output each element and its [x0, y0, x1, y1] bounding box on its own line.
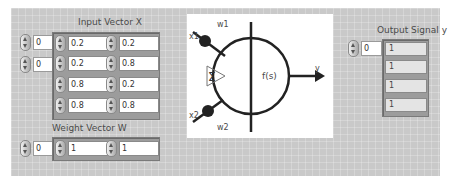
w2-label: w2 — [217, 123, 229, 132]
neuron-diagram: Σ x1 w1 x2 w2 f(s) y — [187, 14, 333, 138]
output-signal-label: Output Signal y — [377, 25, 447, 35]
input-cell[interactable]: 0.8 — [55, 76, 108, 93]
neuron-diagram-icon: Σ — [187, 14, 333, 138]
spin-arrows-icon[interactable] — [55, 35, 66, 52]
spin-arrows-icon[interactable] — [55, 140, 66, 157]
spin-arrows-icon[interactable] — [20, 56, 31, 73]
spin-arrows-icon[interactable] — [55, 97, 66, 114]
spin-arrows-icon[interactable] — [106, 55, 117, 72]
output-cell: 1 — [385, 79, 427, 93]
weight-vector-label: Weight Vector W — [52, 123, 127, 133]
spin-arrows-icon[interactable] — [20, 34, 31, 51]
x1-label: x1 — [189, 32, 199, 41]
output-cell: 1 — [385, 98, 427, 112]
spin-arrows-icon[interactable] — [106, 76, 117, 93]
spin-arrows-icon[interactable] — [106, 97, 117, 114]
weight-cell[interactable]: 1 — [106, 140, 159, 157]
spin-arrows-icon[interactable] — [55, 55, 66, 72]
weight-cell[interactable]: 1 — [55, 140, 108, 157]
input-cell[interactable]: 0.8 — [106, 55, 159, 72]
input-cell[interactable]: 0.2 — [55, 35, 108, 52]
output-cell: 1 — [385, 60, 427, 74]
input-cell[interactable]: 0.8 — [106, 97, 159, 114]
input-cell[interactable]: 0.2 — [55, 55, 108, 72]
input-cell[interactable]: 0.2 — [106, 76, 159, 93]
spin-arrows-icon[interactable] — [55, 76, 66, 93]
spin-arrows-icon[interactable] — [106, 35, 117, 52]
spin-arrows-icon[interactable] — [106, 140, 117, 157]
input-cell[interactable]: 0.8 — [55, 97, 108, 114]
weight-index[interactable]: 0 — [20, 140, 54, 157]
input-col-index[interactable]: 0 — [20, 56, 54, 73]
input-vector-label: Input Vector X — [78, 17, 142, 27]
input-row-index[interactable]: 0 — [20, 34, 54, 51]
output-cell: 1 — [385, 42, 427, 56]
activation-label: f(s) — [262, 71, 277, 81]
x2-label: x2 — [189, 111, 199, 120]
sum-symbol: Σ — [208, 70, 216, 84]
spin-arrows-icon[interactable] — [20, 140, 31, 157]
output-y-label: y — [315, 64, 320, 73]
input-cell[interactable]: 0.2 — [106, 35, 159, 52]
w1-label: w1 — [217, 20, 229, 29]
output-index[interactable]: 0 — [348, 40, 382, 57]
spin-arrows-icon[interactable] — [348, 40, 359, 57]
